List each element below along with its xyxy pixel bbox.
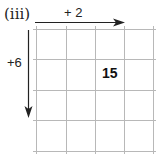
grid-diagram [0,0,156,160]
vertical-arrow-icon [25,30,33,118]
horizontal-arrow-icon [35,19,125,27]
grid-lines [33,26,156,154]
cell-value: 15 [102,66,118,80]
